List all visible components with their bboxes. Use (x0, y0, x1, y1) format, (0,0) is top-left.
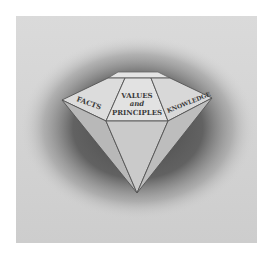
label-principles: PRINCIPLES (112, 108, 162, 117)
label-and: and (130, 99, 145, 108)
diamond-drawing: FACTS VALUES and PRINCIPLES KNOWLEDGE (16, 16, 257, 243)
drawing-canvas: FACTS VALUES and PRINCIPLES KNOWLEDGE (16, 16, 257, 243)
